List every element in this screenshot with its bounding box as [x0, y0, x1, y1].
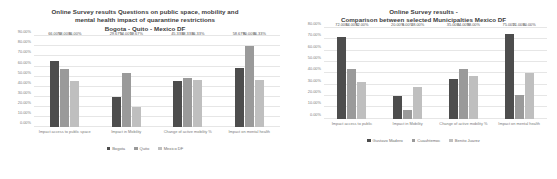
bar-holder: 21.00% [515, 28, 524, 119]
bar-value-label: 32.00% [355, 22, 368, 27]
bar-holder: 35.00% [449, 28, 458, 119]
bar-holder: 44.00% [459, 28, 468, 119]
bar-groups-left: 66.00%58.00%46.00%29.67%54.00%19.67%45.3… [34, 36, 280, 127]
bar[interactable]: 44.00% [459, 69, 468, 119]
x-tick-label: Impact access to public [324, 119, 380, 133]
bar[interactable]: 66.00% [50, 61, 59, 128]
bar-holder: 29.67% [112, 36, 121, 127]
bar[interactable]: 35.00% [449, 79, 458, 119]
x-tick-label: Impact on mental health [491, 119, 547, 133]
legend-item[interactable]: Quito [134, 146, 149, 151]
bar-groups-right: 72.00%44.00%32.00%20.00%8.00%28.00%35.00… [324, 28, 547, 119]
y-tick-label: 70.00% [18, 49, 31, 54]
bar[interactable]: 46.00% [70, 81, 79, 128]
chart-title-right: Online Survey results - Comparison betwe… [290, 0, 557, 25]
chart-sheet: Online Survey results Questions on publi… [0, 0, 557, 179]
y-tick-label: 80.00% [18, 39, 31, 44]
y-tick-label: 70.00% [308, 32, 321, 37]
bar-holder: 19.67% [132, 36, 141, 127]
legend-label: Quito [140, 146, 150, 151]
bar-holder: 58.67% [235, 36, 244, 127]
bar[interactable]: 54.00% [122, 73, 131, 128]
legend-swatch-icon [134, 147, 137, 150]
bar-holder: 28.00% [413, 28, 422, 119]
legend-swatch-icon [158, 147, 161, 150]
bar[interactable]: 19.67% [132, 107, 141, 127]
bar[interactable]: 40.00% [525, 73, 534, 119]
bar[interactable]: 45.33% [173, 81, 182, 127]
bar[interactable]: 46.33% [255, 80, 264, 127]
bar-holder: 46.33% [255, 36, 264, 127]
bar[interactable]: 58.00% [60, 69, 69, 128]
legend-swatch-icon [412, 139, 415, 142]
chart-title-right-line1: Online Survey results - [290, 8, 557, 16]
x-tick-label: Impact in Mobility [96, 127, 158, 141]
plot-area-left: 0.00%10.00%20.00%30.00%40.00%50.00%60.00… [4, 36, 284, 141]
bar-value-label: 19.67% [130, 31, 143, 36]
y-tick-label: 90.00% [18, 29, 31, 34]
bar-value-label: 28.00% [411, 22, 424, 27]
x-tick-label: Change of active mobility % [157, 127, 219, 141]
bar[interactable]: 20.00% [393, 96, 402, 119]
y-axis-labels-right: 0.00%10.00%20.00%30.00%40.00%50.00%60.00… [294, 28, 323, 119]
bar-holder: 38.00% [469, 28, 478, 119]
bar[interactable]: 44.00% [347, 69, 356, 119]
bar-value-label: 46.00% [68, 31, 81, 36]
y-tick-label: 0.00% [310, 111, 321, 116]
bar-group: 45.33%48.33%46.33% [157, 36, 219, 127]
chart-panel-left: Online Survey results Questions on publi… [0, 0, 290, 179]
x-tick-label: Impact on mental health [219, 127, 281, 141]
bar[interactable]: 29.67% [112, 97, 121, 127]
bar[interactable]: 75.00% [505, 34, 514, 119]
y-tick-label: 50.00% [308, 54, 321, 59]
bar[interactable]: 48.33% [183, 78, 192, 127]
legend-item[interactable]: Gustavo Madero [367, 138, 403, 143]
bar[interactable]: 46.33% [193, 80, 202, 127]
legend-item[interactable]: Benito Juarez [449, 138, 479, 143]
legend-label: Bogota [112, 146, 125, 151]
bar-holder: 54.00% [122, 36, 131, 127]
chart-panel-right: Online Survey results - Comparison betwe… [290, 0, 557, 179]
bar-group: 29.67%54.00%19.67% [96, 36, 158, 127]
bar[interactable]: 38.00% [469, 76, 478, 119]
bar-holder: 72.00% [337, 28, 346, 119]
legend-item[interactable]: Mexico DF [158, 146, 183, 151]
chart-title-left-line1: Online Survey results Questions on publi… [0, 8, 290, 16]
bar-group: 35.00%44.00%38.00% [436, 28, 492, 119]
bar[interactable]: 32.00% [357, 82, 366, 118]
y-tick-label: 60.00% [18, 59, 31, 64]
bar-holder: 66.00% [50, 36, 59, 127]
y-tick-label: 80.00% [308, 20, 321, 25]
bar-holder: 45.33% [173, 36, 182, 127]
bar[interactable]: 28.00% [413, 87, 422, 119]
bar[interactable]: 80.00% [245, 46, 254, 127]
chart-title-left: Online Survey results Questions on publi… [0, 0, 290, 33]
x-tick-label: Change of active mobility % [436, 119, 492, 133]
bar-group: 58.67%80.00%46.33% [219, 36, 281, 127]
bar-holder: 80.00% [245, 36, 254, 127]
bar-group: 20.00%8.00%28.00% [380, 28, 436, 119]
bar-holder: 58.00% [60, 36, 69, 127]
legend-swatch-icon [367, 139, 370, 142]
legend-label: Gustavo Madero [373, 138, 403, 143]
y-tick-label: 30.00% [18, 89, 31, 94]
legend-item[interactable]: Bogota [107, 146, 125, 151]
bar[interactable]: 72.00% [337, 37, 346, 119]
bar-value-label: 46.33% [253, 31, 266, 36]
bar-value-label: 46.33% [191, 31, 204, 36]
bar[interactable]: 58.67% [235, 68, 244, 127]
bar[interactable]: 8.00% [403, 110, 412, 119]
bar-group: 66.00%58.00%46.00% [34, 36, 96, 127]
bar-holder: 44.00% [347, 28, 356, 119]
legend-swatch-icon [449, 139, 452, 142]
bar-group: 75.00%21.00%40.00% [491, 28, 547, 119]
plot-area-right: 0.00%10.00%20.00%30.00%40.00%50.00%60.00… [294, 28, 551, 133]
y-axis-labels-left: 0.00%10.00%20.00%30.00%40.00%50.00%60.00… [4, 36, 33, 127]
legend-swatch-icon [107, 147, 110, 150]
y-tick-label: 30.00% [308, 77, 321, 82]
bar-holder: 48.33% [183, 36, 192, 127]
legend-item[interactable]: Cuauhtemoc [412, 138, 441, 143]
y-tick-label: 60.00% [308, 43, 321, 48]
bar[interactable]: 21.00% [515, 95, 524, 119]
x-axis-labels-left: Impact access to public spaceImpact in M… [34, 127, 280, 141]
